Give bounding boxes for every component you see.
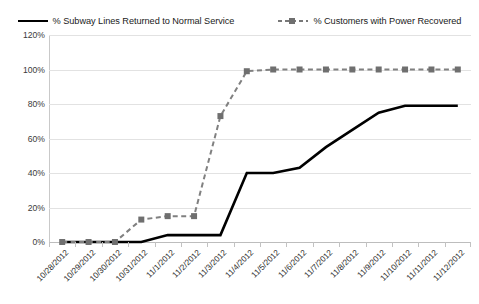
chart-container: % Subway Lines Returned to Normal Servic… (0, 0, 479, 304)
series-marker (402, 67, 408, 73)
y-axis-tick-label: 0% (3, 237, 45, 247)
series-line-2 (62, 70, 458, 243)
series-plot (49, 35, 471, 242)
x-axis-tick (286, 242, 287, 247)
legend-label-power: % Customers with Power Recovered (313, 16, 461, 26)
x-axis-tick (313, 242, 314, 247)
x-axis-tick (75, 242, 76, 247)
series-marker (191, 213, 197, 219)
series-line-1 (62, 106, 458, 242)
x-axis-tick (418, 242, 419, 247)
series-marker (138, 217, 144, 223)
y-axis-tick-label: 80% (3, 99, 45, 109)
series-marker (455, 67, 461, 73)
x-axis-tick (445, 242, 446, 247)
y-axis-tick-label: 20% (3, 203, 45, 213)
plot-area (49, 35, 471, 242)
series-marker (349, 67, 355, 73)
x-axis-tick (260, 242, 261, 247)
chart-legend: % Subway Lines Returned to Normal Servic… (0, 10, 479, 32)
x-axis-tick (102, 242, 103, 247)
x-axis-tick (155, 242, 156, 247)
series-marker (428, 67, 434, 73)
x-axis-tick (207, 242, 208, 247)
y-axis-tick-label: 100% (3, 65, 45, 75)
series-marker (270, 67, 276, 73)
series-marker (217, 113, 223, 119)
series-marker (244, 68, 250, 74)
legend-item-subway: % Subway Lines Returned to Normal Servic… (18, 16, 235, 26)
legend-label-subway: % Subway Lines Returned to Normal Servic… (53, 16, 235, 26)
series-marker (165, 213, 171, 219)
series-marker (376, 67, 382, 73)
y-axis-tick-label: 40% (3, 168, 45, 178)
x-axis-tick (366, 242, 367, 247)
series-marker (297, 67, 303, 73)
y-axis-labels: 120%100%80%60%40%20%0% (0, 35, 45, 242)
dashed-line-swatch-icon (278, 16, 308, 26)
x-axis-tick (339, 242, 340, 247)
x-axis-tick (128, 242, 129, 247)
x-axis-tick (392, 242, 393, 247)
x-axis-tick (49, 242, 50, 247)
legend-item-power: % Customers with Power Recovered (278, 16, 461, 26)
series-marker (323, 67, 329, 73)
x-axis-labels: 10/28/201210/29/201210/30/201210/31/2012… (49, 248, 479, 304)
x-axis-tick (470, 242, 471, 247)
y-axis-tick-label: 60% (3, 134, 45, 144)
solid-line-swatch-icon (18, 16, 48, 26)
x-axis-tick (234, 242, 235, 247)
y-axis-tick-label: 120% (3, 30, 45, 40)
x-axis-tick (181, 242, 182, 247)
